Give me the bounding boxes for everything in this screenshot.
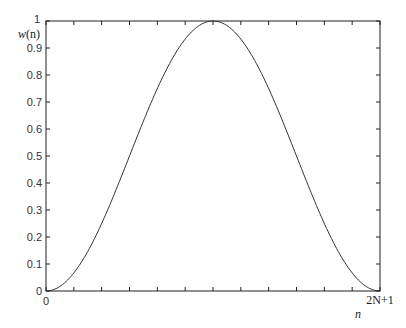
y-axis-label-w: w <box>18 27 26 41</box>
plot-axes-box <box>46 21 380 291</box>
y-tick-label: 0.2 <box>27 231 42 243</box>
y-axis-label-arg: (n) <box>26 27 40 41</box>
y-tick-label: 0.4 <box>27 177 42 189</box>
y-axis-ticks: 00.10.20.30.40.50.60.70.80.91 <box>27 13 380 297</box>
x-axis-end-label: 2N+1 <box>366 293 393 307</box>
y-tick-label: 1 <box>34 13 40 25</box>
x-axis-start-label: 0 <box>43 295 49 307</box>
y-tick-label: 0.3 <box>27 204 42 216</box>
window-curve <box>46 21 380 291</box>
x-axis-label: n <box>355 307 361 321</box>
y-tick-label: 0.7 <box>27 96 42 108</box>
y-tick-label: 0.5 <box>27 150 42 162</box>
y-tick-label: 0.1 <box>27 258 42 270</box>
x-axis-ticks <box>46 21 380 291</box>
y-axis-label: w(n) <box>18 27 40 41</box>
y-tick-label: 0.8 <box>27 69 42 81</box>
y-tick-label: 0 <box>36 285 42 297</box>
y-tick-label: 0.9 <box>27 42 42 54</box>
y-tick-label: 0.6 <box>27 123 42 135</box>
hann-window-chart: 00.10.20.30.40.50.60.70.80.91 w(n) 0 2N+… <box>0 0 406 328</box>
